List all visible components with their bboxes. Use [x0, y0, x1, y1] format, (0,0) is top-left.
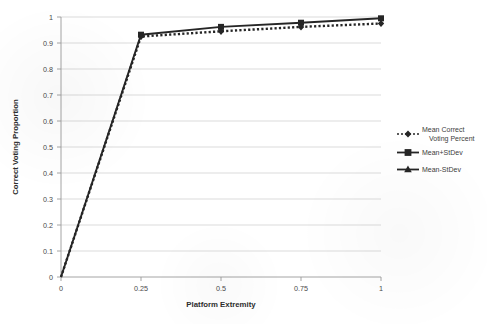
legend-label: Mean+StDev	[422, 149, 463, 156]
y-tick-label: 0.9	[43, 39, 53, 48]
y-tick-label: 0.1	[43, 247, 53, 256]
y-tick-label: 0	[49, 273, 53, 282]
y-tick-label: 1	[49, 13, 53, 22]
y-tick-label: 0.6	[43, 117, 53, 126]
y-tick-label: 0.4	[43, 169, 53, 178]
y-axis-title: Correct Voting Proportion	[11, 99, 20, 195]
legend-label: Mean Correct	[422, 126, 464, 133]
chart-background	[0, 0, 487, 324]
x-tick-label: 0.25	[134, 284, 148, 293]
x-tick-label: 0.75	[294, 284, 308, 293]
y-tick-label: 0.7	[43, 91, 53, 100]
y-tick-label: 0.3	[43, 195, 53, 204]
y-tick-label: 0.5	[43, 143, 53, 152]
line-chart: 0 0.1 0.2 0.3 0.4 0.5 0.6 0.7 0.8 0.9 1 …	[0, 0, 487, 324]
y-tick-label: 0.2	[43, 221, 53, 230]
x-axis-title: Platform Extremity	[186, 300, 256, 309]
y-tick-label: 0.8	[43, 65, 53, 74]
square-marker-icon	[405, 149, 412, 156]
legend-label: Mean-StDev	[422, 166, 461, 173]
x-tick-label: 0	[59, 284, 63, 293]
legend-label: Voting Percent	[429, 135, 475, 143]
x-tick-label: 1	[379, 284, 383, 293]
legend-item-mean-plus-stdev[interactable]: Mean+StDev	[397, 149, 463, 156]
chart-container: 0 0.1 0.2 0.3 0.4 0.5 0.6 0.7 0.8 0.9 1 …	[0, 0, 487, 324]
x-tick-label: 0.5	[216, 284, 226, 293]
